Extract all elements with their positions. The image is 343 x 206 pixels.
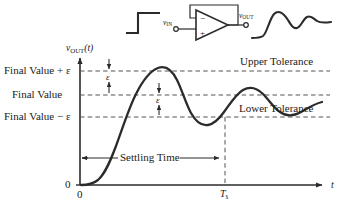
upper-tolerance-label: Upper Tolerance: [240, 56, 313, 67]
y-axis-label-subscript: OUT: [70, 47, 84, 54]
step-response-curve: [81, 67, 322, 185]
lower-tolerance-label: Lower Tolerance: [239, 103, 313, 114]
input-step-waveform: [126, 13, 160, 33]
settling-time-figure: vOUT(t) t Final Value + ε Final Value Fi…: [0, 0, 343, 206]
vout-label: vOUT: [239, 12, 253, 20]
settling-time-label: Settling Time: [120, 152, 180, 163]
x-axis-label: t: [331, 180, 334, 190]
output-ringing-waveform: [252, 12, 331, 38]
level-label-upper: Final Value + ε: [4, 65, 71, 76]
origin-label-y: 0: [65, 179, 71, 190]
opamp-noninverting-sign: +: [200, 29, 205, 38]
vin-node: [174, 27, 196, 32]
y-axis-label: vOUT(t): [66, 44, 93, 54]
vout-label-subscript: OUT: [242, 14, 253, 20]
opamp-inverting-sign: −: [200, 14, 205, 23]
epsilon-label-right: ε: [156, 96, 160, 105]
vin-label: vIN: [163, 19, 172, 27]
ts-label-subscript: s: [226, 193, 229, 201]
level-label-lower: Final Value − ε: [4, 111, 71, 122]
ts-label: Ts: [220, 189, 228, 199]
epsilon-label-left: ε: [106, 73, 110, 82]
origin-label-x: 0: [77, 189, 83, 200]
level-label-final: Final Value: [12, 89, 62, 100]
vin-label-subscript: IN: [166, 21, 172, 27]
